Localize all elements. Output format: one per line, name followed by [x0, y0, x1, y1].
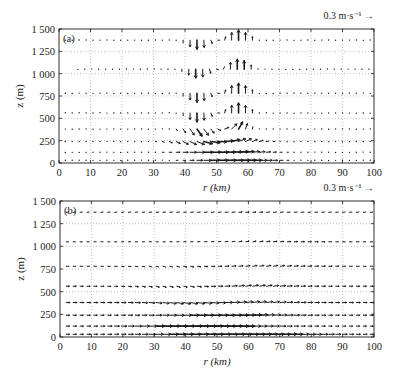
vector-dot: [293, 141, 294, 142]
vector-dot: [148, 129, 149, 130]
vector-dot: [175, 40, 176, 41]
vector-dot: [300, 151, 301, 152]
x-tick-label: 30: [149, 341, 160, 352]
vector-dot: [370, 93, 371, 94]
x-tick-label: 20: [118, 341, 129, 352]
vector-dot: [113, 112, 114, 113]
vector-arrowhead: [68, 326, 69, 327]
y-tick-label: 0: [51, 332, 56, 343]
vector-dot: [342, 93, 343, 94]
vector-dot: [356, 39, 357, 40]
vector-dot: [99, 160, 100, 161]
vector-dot: [113, 160, 114, 161]
vector-dot: [153, 68, 154, 69]
vector-arrowhead: [338, 315, 339, 316]
vector-dot: [78, 141, 79, 142]
vector-dot: [127, 93, 128, 94]
y-tick-label: 1 500: [31, 24, 55, 35]
vector-arrow: [252, 127, 253, 129]
y-axis-label: z (m): [13, 84, 26, 108]
vector-dot: [314, 128, 315, 129]
x-tick-label: 50: [212, 341, 223, 352]
vector-dot: [314, 160, 315, 161]
vector-dot: [72, 93, 73, 94]
panel-label: (a): [63, 33, 75, 45]
vector-arrowhead: [283, 241, 284, 242]
vector-dot: [363, 151, 364, 152]
vector-arrowhead: [110, 315, 111, 316]
vector-arrow: [176, 129, 177, 131]
vector-dot: [120, 160, 121, 161]
vector-dot: [65, 152, 66, 153]
vector-dot: [133, 68, 134, 69]
vector-dot: [356, 152, 357, 153]
vector-arrowhead: [96, 315, 97, 316]
vector-dot: [141, 159, 142, 160]
vector-arrowhead: [96, 334, 97, 335]
vector-dot: [112, 69, 113, 70]
vector-dot: [162, 93, 163, 94]
vector-dot: [342, 39, 343, 40]
vector-arrowhead: [276, 241, 277, 242]
vector-dot: [127, 141, 128, 142]
vector-dot: [271, 69, 272, 70]
vector-arrowhead: [83, 302, 84, 303]
vector-dot: [106, 128, 107, 129]
x-axis-label: r (km): [203, 181, 231, 194]
vector-arrowhead: [373, 334, 374, 335]
vector-arrowhead: [137, 286, 138, 287]
vector-dot: [313, 69, 314, 70]
x-tick-label: 80: [306, 341, 317, 352]
vector-dot: [134, 159, 135, 160]
vector-arrowhead: [331, 266, 332, 267]
vector-dot: [134, 112, 135, 113]
vector-dot: [334, 68, 335, 69]
vector-arrowhead: [352, 286, 353, 287]
vector-arrowhead: [331, 315, 332, 316]
y-tick-label: 500: [40, 287, 56, 298]
y-axis: 02505007501 0001 2501 500: [32, 196, 374, 343]
vector-dot: [148, 141, 149, 142]
y-tick-label: 1 000: [32, 241, 56, 252]
vector-dot: [259, 112, 260, 113]
vector-dot: [113, 152, 114, 153]
vector-dot: [361, 69, 362, 70]
vector-arrowhead: [75, 286, 76, 287]
vector-dot: [341, 68, 342, 69]
vector-dot: [328, 141, 329, 142]
vector-arrowhead: [324, 286, 325, 287]
vector-dot: [126, 68, 127, 69]
vector-arrowhead: [82, 315, 83, 316]
x-tick-label: 30: [148, 167, 159, 178]
vector-dot: [349, 160, 350, 161]
vector-dot: [175, 112, 176, 113]
vector-dot: [307, 141, 308, 142]
vector-dot: [98, 69, 99, 70]
vector-dot: [148, 92, 149, 93]
x-tick-label: 70: [274, 167, 285, 178]
vector-dot: [72, 141, 73, 142]
vector-dot: [314, 151, 315, 152]
vector-dot: [335, 93, 336, 94]
vector-dot: [65, 128, 66, 129]
vector-dot: [78, 39, 79, 40]
vector-arrowhead: [179, 152, 180, 153]
vector-dot: [273, 128, 274, 129]
vector-arrow: [217, 69, 219, 70]
vector-dot: [314, 39, 315, 40]
vector-dot: [105, 68, 106, 69]
vector-dot: [134, 39, 135, 40]
vector-dot: [127, 112, 128, 113]
vector-dot: [65, 141, 66, 142]
vector-dot: [273, 93, 274, 94]
vector-arrowhead: [214, 266, 215, 267]
vector-dot: [77, 69, 78, 70]
vector-dot: [293, 92, 294, 93]
x-tick-label: 0: [56, 167, 61, 178]
vector-arrowhead: [248, 241, 249, 242]
vector-field: [66, 212, 374, 336]
vector-dot: [363, 141, 364, 142]
vector-arrowhead: [366, 302, 367, 303]
vector-dot: [328, 39, 329, 40]
vector-dot: [141, 128, 142, 129]
